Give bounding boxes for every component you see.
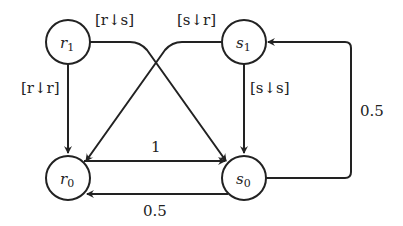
edge-label-r1-s0: [r↓s] [95,11,134,29]
edge-label-s1-s0: [s↓s] [250,79,290,97]
state-diagram: r1 s1 r0 s0 [r↓s] [s↓r] [r↓r] [s↓s] 1 0.… [0,0,403,226]
node-s1: s1 [222,20,266,64]
edge-s0-to-s1 [266,42,351,178]
node-s0: s0 [222,156,266,200]
node-r0: r0 [46,156,90,200]
node-r1: r1 [46,20,90,64]
edge-label-s1-r0: [s↓r] [177,11,216,29]
edge-label-s0-r0: 0.5 [143,202,167,220]
edge-label-s0-s1: 0.5 [360,102,384,120]
edge-label-r1-r0: [r↓r] [21,79,60,97]
edge-label-r0-s0: 1 [151,138,161,156]
